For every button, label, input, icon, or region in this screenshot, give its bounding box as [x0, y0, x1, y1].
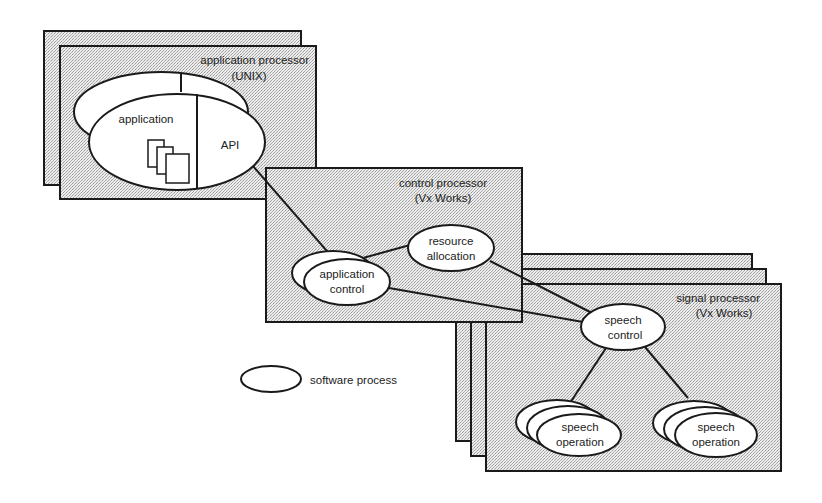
- application-control-label-line1: application: [320, 268, 375, 280]
- resource-allocation-label-line1: resource: [429, 235, 474, 247]
- application-control-label-line2: control: [330, 283, 365, 295]
- speech-operation-left-label-line1: speech: [561, 421, 598, 433]
- speech-control-label-line1: speech: [604, 314, 641, 326]
- application-processor-label: application processor: [200, 54, 309, 66]
- application-process-label: application: [119, 113, 174, 125]
- speech-operation-right-label-line1: speech: [697, 421, 734, 433]
- resource-allocation-ellipse[interactable]: [408, 225, 494, 271]
- speech-control-label-line2: control: [608, 329, 643, 341]
- speech-operation-right-label-line2: operation: [692, 436, 740, 448]
- signal-processor-label: signal processor: [676, 292, 760, 304]
- speech-control-ellipse[interactable]: [581, 304, 665, 350]
- control-processor-label: control processor: [399, 177, 487, 189]
- resource-allocation-label-line2: allocation: [427, 250, 476, 262]
- resource-allocation-process[interactable]: resource allocation: [408, 225, 494, 271]
- api-process-label: API: [221, 139, 240, 151]
- legend-software-process-ellipse: [241, 366, 301, 392]
- speech-operation-left-label-line2: operation: [556, 436, 604, 448]
- legend: software process: [241, 366, 397, 392]
- speech-operation-right-ellipse[interactable]: [675, 413, 757, 457]
- control-processor-os-label: (Vx Works): [415, 192, 472, 204]
- signal-processor-os-label: (Vx Works): [696, 307, 753, 319]
- legend-software-process-label: software process: [310, 374, 397, 386]
- application-processor-os-label: (UNIX): [231, 70, 266, 82]
- architecture-diagram: application processor (UNIX) application…: [0, 0, 822, 503]
- speech-control-process[interactable]: speech control: [581, 304, 665, 350]
- application-control-ellipse[interactable]: [304, 259, 390, 305]
